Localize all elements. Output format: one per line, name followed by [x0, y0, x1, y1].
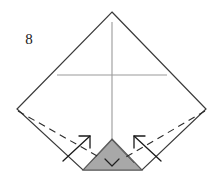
origami-diagram-figure: 8 — [0, 0, 222, 176]
origami-diagram-canvas: 8 — [0, 0, 222, 176]
step-number-label: 8 — [25, 31, 33, 47]
